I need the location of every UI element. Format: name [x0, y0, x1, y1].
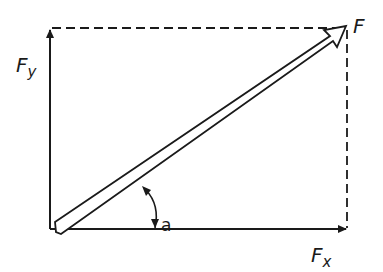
angle-label: a	[161, 215, 171, 235]
resultant-arrow	[55, 26, 346, 234]
y-component-label: Fy	[16, 53, 38, 81]
x-component-label: Fx	[311, 243, 332, 271]
resultant-label: F	[353, 14, 365, 38]
angle-arc-arrowhead-bottom	[151, 219, 159, 228]
force-diagram: Fy F Fx a	[0, 0, 383, 272]
